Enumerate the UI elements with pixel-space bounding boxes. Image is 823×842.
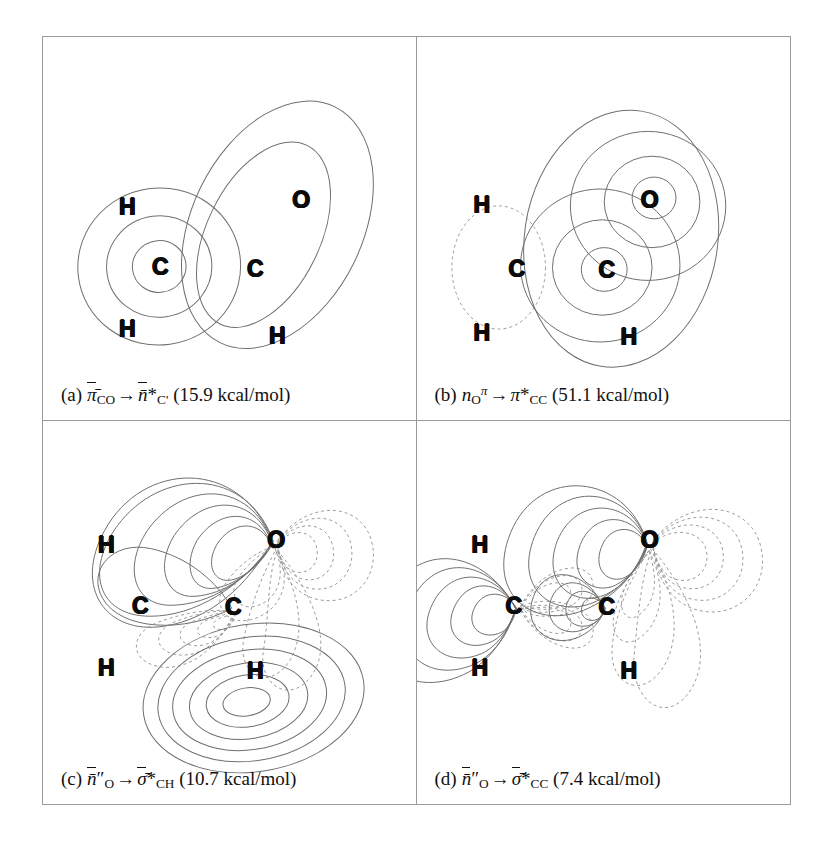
- atom-label-o: O: [267, 528, 284, 551]
- donor-subscript: CO: [97, 392, 115, 407]
- panel-caption-label: (b): [435, 384, 457, 405]
- atom-label-h: H: [473, 322, 489, 345]
- panel-d: H C H C O H (d)n̄″O→σ̄*CC (7.4 kcal/mol): [417, 421, 791, 805]
- atom-label-h: H: [473, 194, 489, 217]
- panel-b: H C H C O H (b)nOπ→π*CC (51.1 kcal/mol): [417, 37, 791, 421]
- acceptor-subscript: CC: [531, 776, 549, 791]
- acceptor-subscript: CC: [529, 392, 547, 407]
- energy-text: (51.1 kcal/mol): [552, 384, 669, 405]
- atom-label-h: H: [269, 325, 285, 348]
- transition-arrow: →: [487, 384, 510, 405]
- atom-label-h: H: [471, 656, 487, 679]
- acceptor-subscript: C': [157, 392, 168, 407]
- atom-label-c: C: [508, 258, 524, 281]
- panel-caption-a: (a)π̄CO→n̄*C' (15.9 kcal/mol): [61, 385, 290, 408]
- atom-label-h: H: [471, 533, 487, 556]
- atom-label-h: H: [119, 196, 135, 219]
- donor-subscript: O: [479, 776, 489, 791]
- panel-caption-d: (d)n̄″O→σ̄*CC (7.4 kcal/mol): [435, 769, 661, 792]
- transition-arrow: →: [115, 384, 138, 405]
- acceptor-subscript: CH: [156, 776, 174, 791]
- atom-label-c: C: [225, 595, 241, 618]
- energy-text: (15.9 kcal/mol): [173, 384, 290, 405]
- panel-caption-label: (a): [61, 384, 82, 405]
- panel-caption-c: (c)n̄″O→σ̄*CH (10.7 kcal/mol): [61, 769, 296, 792]
- atom-label-h: H: [98, 533, 114, 556]
- atom-label-c: C: [505, 594, 521, 617]
- donor-orbital-symbol: n̄″O: [87, 768, 114, 789]
- transition-arrow: →: [489, 768, 512, 789]
- acceptor-orbital-symbol: n̄*C': [138, 384, 168, 405]
- atom-label-o: O: [641, 189, 658, 212]
- energy-text: (10.7 kcal/mol): [179, 768, 296, 789]
- atom-label-o: O: [292, 189, 309, 212]
- acceptor-orbital-symbol: π*CC: [510, 384, 547, 405]
- donor-prime: ″: [97, 768, 105, 789]
- panel-caption-label: (d): [435, 768, 457, 789]
- atom-label-c: C: [247, 258, 263, 281]
- atom-label-h: H: [620, 659, 636, 682]
- donor-orbital-symbol: nOπ: [462, 384, 488, 405]
- donor-prime: ″: [471, 768, 479, 789]
- contour-plot-b: [417, 37, 791, 420]
- atom-label-h: H: [247, 659, 263, 682]
- donor-orbital-symbol: n̄″O: [462, 768, 489, 789]
- donor-orbital-symbol: π̄CO: [87, 384, 115, 405]
- atom-label-c: C: [132, 594, 148, 617]
- panel-a: H C H C O H (a)π̄CO→n̄*C' (15.9 kcal/mol…: [43, 37, 417, 421]
- figure-frame: H C H C O H (a)π̄CO→n̄*C' (15.9 kcal/mol…: [42, 36, 791, 805]
- donor-subscript: O: [471, 392, 481, 407]
- atom-label-c: C: [152, 256, 168, 279]
- panel-caption-label: (c): [61, 768, 82, 789]
- panel-caption-b: (b)nOπ→π*CC (51.1 kcal/mol): [435, 384, 670, 408]
- panel-c: H C H C O H (c)n̄″O→σ̄*CH (10.7 kcal/mol…: [43, 421, 417, 805]
- atom-label-h: H: [620, 326, 636, 349]
- acceptor-orbital-symbol: σ̄*CH: [137, 768, 174, 789]
- acceptor-symbol-glyph: π: [510, 384, 520, 405]
- contour-plot-a: [43, 37, 416, 420]
- atom-label-h: H: [119, 318, 135, 341]
- donor-symbol-glyph: n: [462, 384, 472, 405]
- atom-label-c: C: [598, 595, 614, 618]
- acceptor-orbital-symbol: σ̄*CC: [512, 768, 549, 789]
- transition-arrow: →: [114, 768, 137, 789]
- atom-label-h: H: [98, 656, 114, 679]
- atom-label-o: O: [641, 528, 658, 551]
- donor-subscript: O: [105, 776, 115, 791]
- atom-label-c: C: [598, 259, 614, 282]
- energy-text: (7.4 kcal/mol): [553, 768, 661, 789]
